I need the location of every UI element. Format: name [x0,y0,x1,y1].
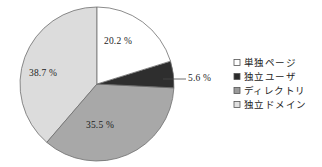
pie-label-independent-domain: 38.7 % [29,68,57,78]
light-square-marker [234,102,240,108]
legend-label-independent-user: 独立ユーザ [244,71,296,82]
legend-item-independent-domain[interactable]: 独立ドメイン [234,99,306,110]
legend-item-directory[interactable]: ディレクトリ [234,85,305,96]
pie-chart-figure: 20.2 % 5.6 % 35.5 % 38.7 % 単独ページ 独立ユーザ デ… [0,0,322,167]
filled-square-marker [234,74,240,80]
legend-label-independent-domain: 独立ドメイン [244,99,306,110]
legend-label-single-page: 単独ページ [244,57,296,68]
legend: 単独ページ 独立ユーザ ディレクトリ 独立ドメイン [234,57,306,110]
gray-square-marker [234,88,240,94]
pie-chart-canvas: 20.2 % 5.6 % 35.5 % 38.7 % 単独ページ 独立ユーザ デ… [0,0,322,167]
open-square-marker [234,60,240,66]
pie-label-directory: 35.5 % [86,120,114,130]
legend-label-directory: ディレクトリ [244,85,305,96]
pie-label-independent-user: 5.6 % [188,73,211,83]
legend-item-single-page[interactable]: 単独ページ [234,57,296,68]
pie-label-single-page: 20.2 % [104,36,132,46]
legend-item-independent-user[interactable]: 独立ユーザ [234,71,296,82]
